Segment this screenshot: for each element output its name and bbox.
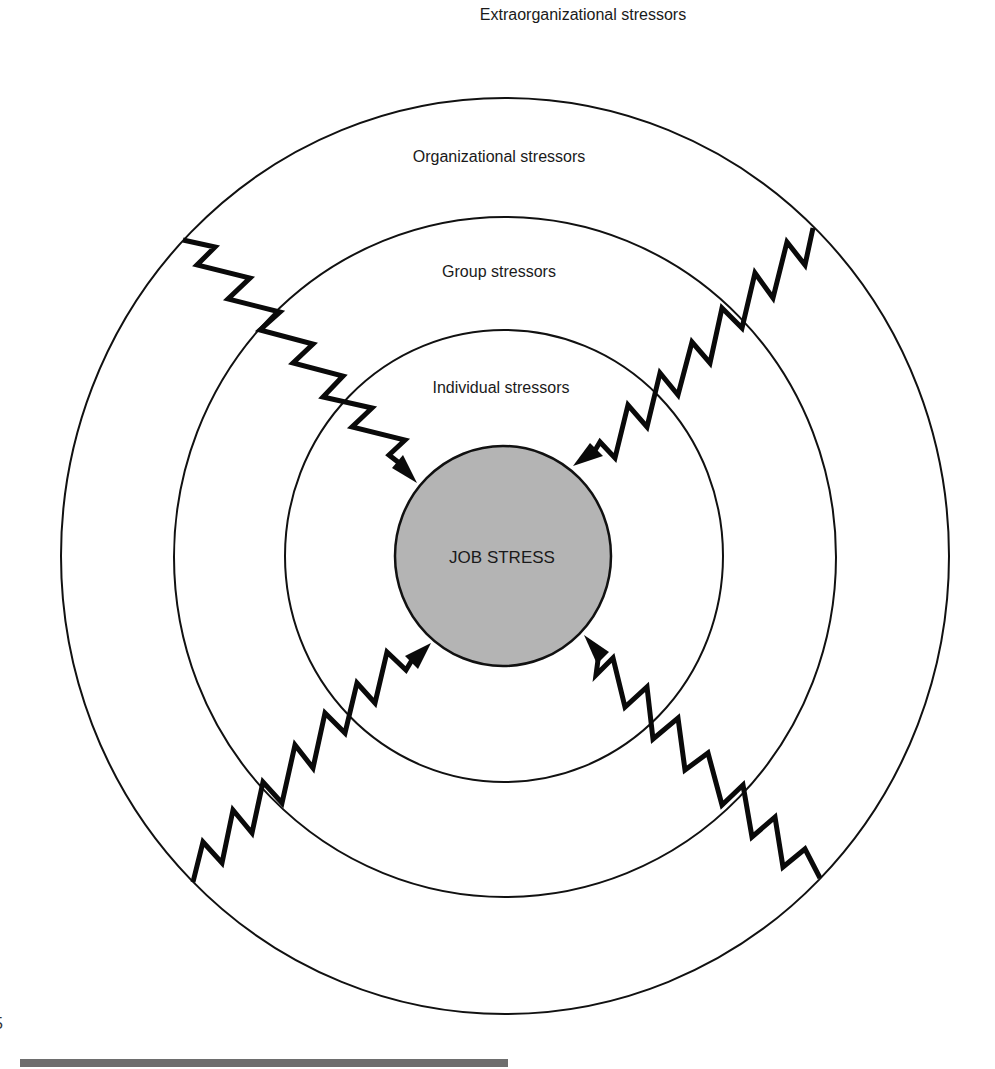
zigzag-arrow-lower-right: [584, 635, 820, 878]
bottom-rule: [20, 1059, 508, 1067]
job-stress-diagram: Extraorganizational stressors Organizati…: [0, 0, 995, 1069]
arrowhead-icon: [584, 635, 609, 664]
job-stress-label: JOB STRESS: [449, 548, 555, 567]
page-fragment-text: 5: [0, 1015, 3, 1032]
zigzag-arrow-upper-left: [183, 240, 417, 483]
organizational-stressors-label: Organizational stressors: [413, 148, 586, 165]
individual-stressors-label: Individual stressors: [433, 379, 570, 396]
extraorganizational-label: Extraorganizational stressors: [480, 6, 686, 23]
zigzag-arrow-lower-left: [193, 643, 431, 882]
group-stressors-label: Group stressors: [442, 263, 556, 280]
zigzag-arrow-upper-right: [573, 228, 813, 466]
